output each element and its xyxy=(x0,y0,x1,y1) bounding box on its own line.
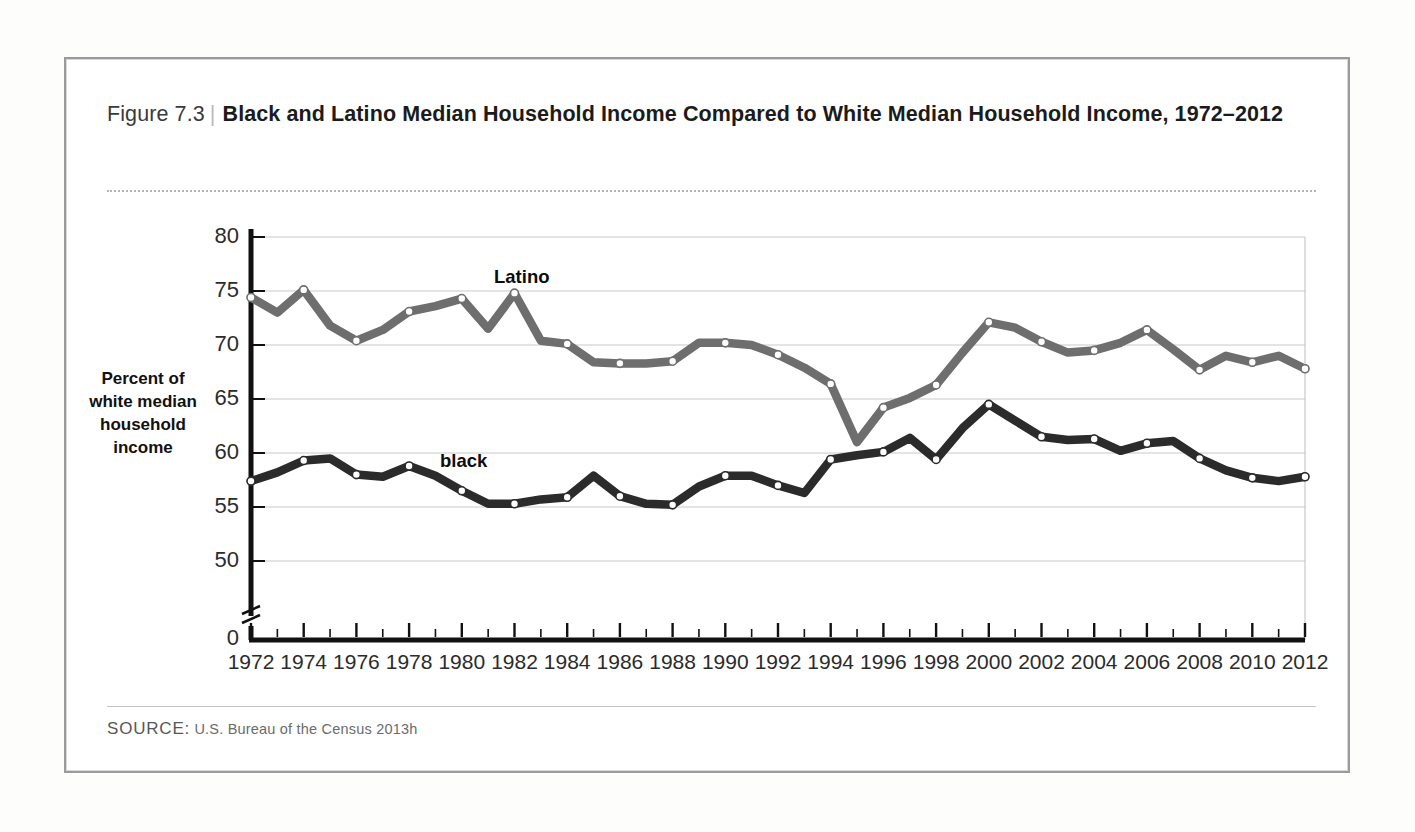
chart-canvas: Percent of white median household income… xyxy=(0,0,1415,832)
data-point xyxy=(1038,433,1046,441)
x-tick-label: 2010 xyxy=(1222,650,1282,674)
data-point xyxy=(1248,474,1256,482)
x-tick-label: 1992 xyxy=(748,650,808,674)
data-point xyxy=(300,286,308,294)
x-tick-label: 1984 xyxy=(537,650,597,674)
data-point xyxy=(247,293,255,301)
data-point xyxy=(247,477,255,485)
source-text: U.S. Bureau of the Census 2013h xyxy=(194,721,417,737)
data-point xyxy=(985,318,993,326)
x-tick-label: 2000 xyxy=(959,650,1019,674)
data-point xyxy=(1301,365,1309,373)
line-chart-svg xyxy=(0,0,1415,832)
data-point xyxy=(616,492,624,500)
y-tick-label: 65 xyxy=(193,385,239,411)
x-tick-label: 1982 xyxy=(485,650,545,674)
data-point xyxy=(1090,435,1098,443)
data-point xyxy=(827,380,835,388)
data-point xyxy=(1248,358,1256,366)
data-point xyxy=(932,455,940,463)
y-tick-label: 80 xyxy=(193,223,239,249)
y-axis-zero-label: 0 xyxy=(193,625,239,651)
data-point xyxy=(352,337,360,345)
data-point xyxy=(774,481,782,489)
series-label-latino: Latino xyxy=(494,266,550,288)
x-tick-label: 2012 xyxy=(1275,650,1335,674)
data-point xyxy=(405,462,413,470)
data-point xyxy=(721,472,729,480)
data-point xyxy=(879,404,887,412)
data-point xyxy=(352,471,360,479)
y-tick-label: 70 xyxy=(193,331,239,357)
data-point xyxy=(669,501,677,509)
data-point xyxy=(616,359,624,367)
data-point xyxy=(774,351,782,359)
data-point xyxy=(405,308,413,316)
y-tick-label: 75 xyxy=(193,277,239,303)
data-point xyxy=(669,357,677,365)
data-point xyxy=(1090,346,1098,354)
x-tick-label: 1988 xyxy=(643,650,703,674)
source-note: SOURCE: U.S. Bureau of the Census 2013h xyxy=(107,719,417,739)
x-tick-label: 2002 xyxy=(1012,650,1072,674)
x-tick-label: 1996 xyxy=(853,650,913,674)
source-divider xyxy=(107,706,1316,707)
data-point xyxy=(1196,454,1204,462)
x-tick-label: 1980 xyxy=(432,650,492,674)
x-tick-label: 1974 xyxy=(274,650,334,674)
data-point xyxy=(458,295,466,303)
y-tick-label: 55 xyxy=(193,493,239,519)
data-point xyxy=(1196,366,1204,374)
x-tick-label: 1990 xyxy=(695,650,755,674)
y-tick-label: 50 xyxy=(193,547,239,573)
data-point xyxy=(827,455,835,463)
x-tick-label: 1998 xyxy=(906,650,966,674)
data-point xyxy=(511,500,519,508)
x-tick-label: 2006 xyxy=(1117,650,1177,674)
x-tick-label: 1986 xyxy=(590,650,650,674)
x-tick-label: 1994 xyxy=(801,650,861,674)
x-tick-label: 1972 xyxy=(221,650,281,674)
source-label: SOURCE: xyxy=(107,719,190,738)
x-tick-label: 1976 xyxy=(326,650,386,674)
data-point xyxy=(458,487,466,495)
series-label-black: black xyxy=(440,450,487,472)
data-point xyxy=(1301,473,1309,481)
data-point xyxy=(721,339,729,347)
x-tick-label: 2008 xyxy=(1170,650,1230,674)
data-point xyxy=(1143,326,1151,334)
x-tick-label: 1978 xyxy=(379,650,439,674)
data-point xyxy=(563,493,571,501)
data-point xyxy=(1143,439,1151,447)
data-point xyxy=(563,340,571,348)
data-point xyxy=(511,289,519,297)
axis-break-mark xyxy=(242,615,260,623)
data-point xyxy=(879,448,887,456)
data-point xyxy=(300,457,308,465)
data-point xyxy=(985,400,993,408)
page-root: Figure 7.3|Black and Latino Median House… xyxy=(0,0,1415,832)
y-tick-label: 60 xyxy=(193,439,239,465)
data-point xyxy=(932,381,940,389)
x-tick-label: 2004 xyxy=(1064,650,1124,674)
data-point xyxy=(1038,338,1046,346)
